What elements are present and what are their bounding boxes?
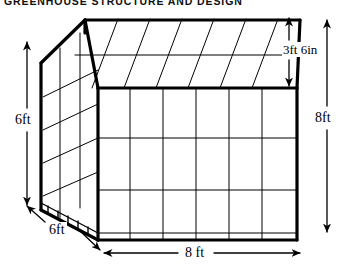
dimension-label-width: 8 ft bbox=[182, 245, 207, 261]
dimension-label-wall-height: 6ft bbox=[14, 112, 32, 128]
dimension-label-roof-rise: 3ft 6in bbox=[282, 42, 318, 57]
dimension-label-total-height: 8ft bbox=[314, 110, 332, 126]
diagram-canvas: GREENHOUSE STRUCTURE AND DESIGN bbox=[0, 0, 347, 277]
dimension-label-depth: 6ft bbox=[47, 222, 67, 238]
